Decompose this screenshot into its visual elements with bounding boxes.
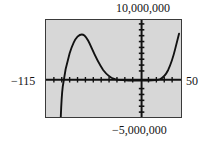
figure-viewport: 10,000,000 −115 50 −5,000,000	[0, 0, 206, 142]
x-axis-min-label: −115	[11, 75, 35, 87]
y-axis	[139, 20, 145, 117]
x-axis-max-label: 50	[186, 75, 198, 87]
plot-canvas	[46, 20, 181, 117]
plot-frame	[45, 19, 182, 118]
y-axis-min-label: −5,000,000	[112, 124, 167, 136]
curve-path	[61, 34, 179, 117]
y-axis-max-label: 10,000,000	[116, 2, 170, 14]
